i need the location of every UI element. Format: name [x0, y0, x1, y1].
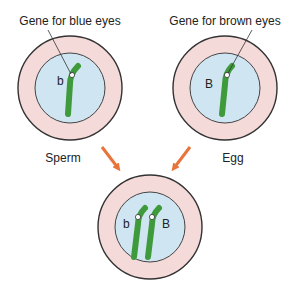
blue-gene-label: Gene for blue eyes — [19, 14, 120, 28]
egg-label: Egg — [222, 151, 243, 165]
gene-locus-icon — [224, 72, 229, 77]
sperm-cell — [18, 30, 122, 140]
sperm-label: Sperm — [45, 151, 80, 165]
gene-locus-icon — [149, 214, 154, 219]
zygote-cell — [98, 175, 202, 279]
zygote-allele-b-label: b — [123, 217, 130, 231]
fertilization-diagram: Gene for blue eyes b Sperm Gene for brow… — [0, 0, 295, 296]
brown-gene-label: Gene for brown eyes — [169, 14, 280, 28]
zygote-allele-B-label: B — [162, 217, 170, 231]
gene-locus-icon — [135, 214, 140, 219]
egg-cell — [173, 30, 277, 140]
arrow-icon — [102, 147, 118, 168]
arrow-icon — [174, 147, 190, 168]
sperm-allele-label: b — [57, 74, 64, 88]
egg-allele-label: B — [205, 77, 213, 91]
